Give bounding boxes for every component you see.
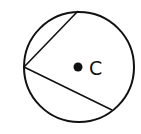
center-label: C [89, 57, 102, 79]
center-point [74, 63, 83, 72]
circle-diagram: C [0, 0, 141, 134]
